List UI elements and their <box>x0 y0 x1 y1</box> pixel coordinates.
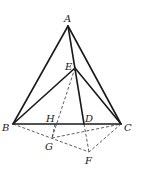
point-labels: ABCDEFGH <box>1 13 132 166</box>
point-label-c: C <box>124 122 132 133</box>
geometry-diagram: ABCDEFGH <box>0 0 141 171</box>
segment-be <box>13 68 75 124</box>
point-label-d: D <box>84 113 93 124</box>
point-label-a: A <box>63 13 71 24</box>
point-label-f: F <box>84 155 93 166</box>
point-label-g: G <box>45 141 53 152</box>
solid-lines <box>13 26 121 124</box>
point-label-b: B <box>1 122 9 133</box>
segment-df <box>84 124 89 152</box>
point-label-h: H <box>45 113 55 124</box>
point-label-e: E <box>64 61 73 72</box>
diagram-svg: ABCDEFGH <box>0 0 141 171</box>
segment-cf <box>89 124 121 152</box>
segment-ab <box>13 26 68 124</box>
